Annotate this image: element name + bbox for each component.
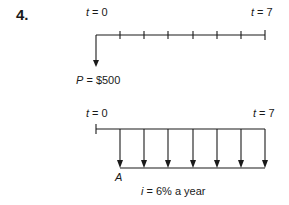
cash-flow-diagrams bbox=[0, 0, 289, 205]
annuity-arrows bbox=[117, 129, 268, 168]
